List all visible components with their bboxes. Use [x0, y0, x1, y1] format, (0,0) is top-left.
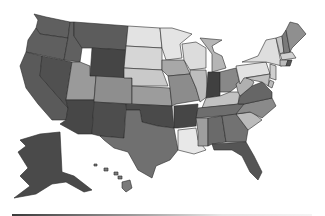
legend-gradient-bar: [12, 214, 312, 216]
state-CO[interactable]: [94, 76, 132, 104]
state-AR[interactable]: [174, 104, 198, 128]
state-ME[interactable]: [286, 22, 306, 52]
state-NY[interactable]: [242, 38, 282, 66]
state-AK[interactable]: [14, 132, 92, 198]
state-HI[interactable]: [94, 164, 132, 192]
state-FL[interactable]: [212, 142, 262, 180]
state-IN[interactable]: [206, 72, 220, 98]
state-NM[interactable]: [92, 102, 126, 138]
us-choropleth-map: [0, 0, 325, 216]
state-ND[interactable]: [126, 26, 162, 48]
state-MS[interactable]: [196, 118, 208, 146]
state-MT[interactable]: [74, 22, 128, 50]
state-KS[interactable]: [132, 86, 172, 106]
state-NJ[interactable]: [270, 64, 276, 80]
state-SD[interactable]: [124, 46, 162, 70]
state-WY[interactable]: [90, 48, 126, 78]
state-MA[interactable]: [280, 52, 296, 60]
